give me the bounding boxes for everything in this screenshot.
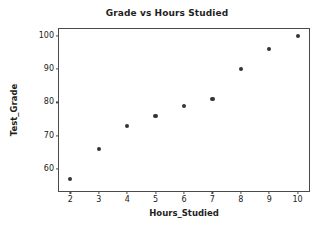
y-axis-tick-label: 80 <box>44 98 54 106</box>
data-point-layer <box>59 29 309 191</box>
data-point <box>97 147 101 151</box>
x-axis-tick-mark <box>297 191 298 194</box>
x-axis-tick-label: 10 <box>293 196 303 204</box>
y-axis-label: Test_Grade <box>9 84 19 137</box>
x-axis-tick-mark <box>70 191 71 194</box>
y-axis-tick-mark <box>56 102 59 103</box>
y-axis-tick-label: 60 <box>44 165 54 173</box>
x-axis-tick-label: 3 <box>96 196 101 204</box>
x-axis-tick-label: 5 <box>153 196 158 204</box>
data-point <box>182 104 186 108</box>
x-axis-tick-mark <box>269 191 270 194</box>
y-axis-tick-mark <box>56 35 59 36</box>
plot-area: 607080901002345678910 <box>58 28 310 192</box>
scatter-plot-figure: Grade vs Hours Studied 60708090100234567… <box>0 0 334 229</box>
x-axis-tick-label: 6 <box>181 196 186 204</box>
y-axis-tick-label: 90 <box>44 65 54 73</box>
x-axis-tick-label: 9 <box>267 196 272 204</box>
x-axis-tick-mark <box>240 191 241 194</box>
y-axis-tick-mark <box>56 68 59 69</box>
y-axis-tick-label: 70 <box>44 132 54 140</box>
y-axis-tick-label: 100 <box>39 32 54 40</box>
x-axis-tick-mark <box>155 191 156 194</box>
data-point <box>239 67 243 71</box>
x-axis-tick-label: 4 <box>125 196 130 204</box>
data-point <box>125 124 129 128</box>
x-axis-tick-mark <box>127 191 128 194</box>
x-axis-tick-mark <box>98 191 99 194</box>
x-axis-label: Hours_Studied <box>58 208 310 218</box>
y-axis-tick-mark <box>56 169 59 170</box>
y-axis-tick-mark <box>56 135 59 136</box>
x-axis-tick-mark <box>212 191 213 194</box>
x-axis-tick-label: 8 <box>238 196 243 204</box>
chart-title: Grade vs Hours Studied <box>0 8 334 18</box>
data-point <box>210 97 214 101</box>
x-axis-tick-mark <box>183 191 184 194</box>
data-point <box>296 34 300 38</box>
data-point <box>68 177 72 181</box>
x-axis-tick-label: 7 <box>210 196 215 204</box>
x-axis-tick-label: 2 <box>68 196 73 204</box>
data-point <box>267 47 271 51</box>
data-point <box>153 114 157 118</box>
